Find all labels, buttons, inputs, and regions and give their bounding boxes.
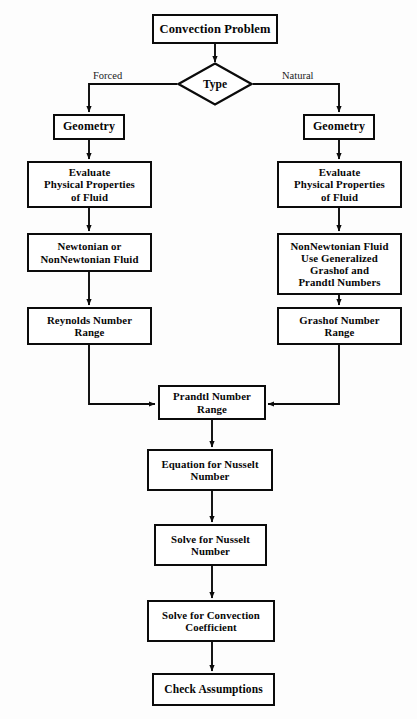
node-label-line: Grashof Number bbox=[297, 314, 381, 326]
node-label-line: Solve for Convection bbox=[160, 609, 262, 621]
node-label: Check Assumptions bbox=[162, 683, 265, 696]
node-geometry-natural: Geometry bbox=[303, 114, 375, 140]
edge-grashof-to-prandtl bbox=[268, 345, 339, 404]
node-label-line: Grashof and bbox=[288, 264, 390, 276]
node-evaluate-properties-forced: Evaluate Physical Properties of Fluid bbox=[27, 161, 152, 208]
node-geometry-forced: Geometry bbox=[53, 114, 125, 140]
node-evaluate-properties-natural: Evaluate Physical Properties of Fluid bbox=[277, 161, 402, 208]
node-label-line: Physical Properties bbox=[292, 178, 387, 190]
node-grashof-number-range: Grashof Number Range bbox=[277, 307, 402, 345]
node-label-line: Range bbox=[297, 326, 381, 338]
node-solve-for-convection-coefficient: Solve for Convection Coefficient bbox=[147, 600, 275, 642]
edge-type-to-natural bbox=[253, 84, 339, 112]
node-label: Geometry bbox=[311, 120, 367, 133]
node-convection-problem: Convection Problem bbox=[152, 14, 278, 44]
node-label-line: Range bbox=[171, 403, 253, 415]
node-prandtl-number-range: Prandtl Number Range bbox=[158, 385, 266, 420]
decision-type: Type bbox=[177, 62, 253, 106]
node-label-line: Physical Properties bbox=[42, 178, 137, 190]
node-check-assumptions: Check Assumptions bbox=[152, 673, 275, 706]
node-nonnewtonian-generalized: NonNewtonian Fluid Use Generalized Grash… bbox=[277, 233, 402, 295]
node-label-line: NonNewtonian Fluid bbox=[38, 253, 140, 265]
flowchart-figure: Convection Problem Type Forced Natural G… bbox=[0, 0, 417, 719]
node-label-line: Newtonian or bbox=[38, 240, 140, 252]
node-label-line: Prandtl Number bbox=[171, 390, 253, 402]
node-label-line: Number bbox=[159, 470, 260, 482]
node-label-line: Coefficient bbox=[160, 621, 262, 633]
edge-reynolds-to-prandtl bbox=[89, 345, 155, 404]
node-reynolds-number-range: Reynolds Number Range bbox=[27, 307, 152, 345]
edge-label-forced: Forced bbox=[93, 70, 122, 81]
decision-label: Type bbox=[177, 62, 253, 106]
node-label-line: Equation for Nusselt bbox=[159, 458, 260, 470]
node-label-line: Reynolds Number bbox=[45, 314, 134, 326]
edge-label-natural: Natural bbox=[282, 70, 314, 81]
node-label-line: Number bbox=[169, 545, 252, 557]
node-label-line: Evaluate bbox=[42, 166, 137, 178]
node-equation-for-nusselt-number: Equation for Nusselt Number bbox=[147, 449, 273, 491]
node-label-line: Evaluate bbox=[292, 166, 387, 178]
node-label-line: of Fluid bbox=[292, 191, 387, 203]
node-label-line: Use Generalized bbox=[288, 252, 390, 264]
edge-type-to-forced bbox=[89, 84, 177, 112]
node-label-line: NonNewtonian Fluid bbox=[288, 240, 390, 252]
node-label: Geometry bbox=[61, 120, 117, 133]
node-label-line: Prandtl Numbers bbox=[288, 276, 390, 288]
node-newtonian-or-nonnewtonian-fluid: Newtonian or NonNewtonian Fluid bbox=[27, 233, 152, 272]
node-label: Convection Problem bbox=[158, 22, 273, 36]
node-label-line: Solve for Nusselt bbox=[169, 533, 252, 545]
node-label-line: of Fluid bbox=[42, 191, 137, 203]
node-label-line: Range bbox=[45, 326, 134, 338]
node-solve-for-nusselt-number: Solve for Nusselt Number bbox=[154, 524, 267, 566]
